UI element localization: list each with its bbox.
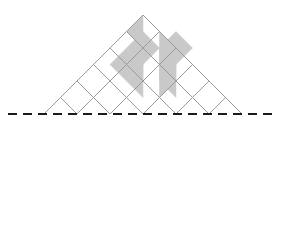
geometric-figure xyxy=(0,0,281,226)
figure-container xyxy=(0,0,281,226)
